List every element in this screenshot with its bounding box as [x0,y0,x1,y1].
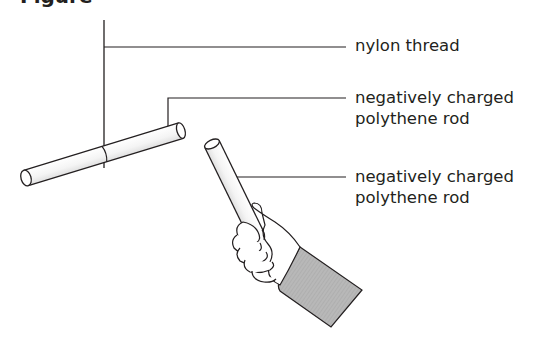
label-line: negatively charged [355,87,514,108]
label-line: polythene rod [355,187,514,208]
label-line: negatively charged [355,166,514,187]
label-held-rod: negatively charged polythene rod [355,166,514,208]
label-nylon-thread: nylon thread [355,35,460,56]
held-polythene-rod [203,137,268,248]
label-line: polythene rod [355,108,514,129]
label-hanging-rod: negatively charged polythene rod [355,87,514,129]
label-line: nylon thread [355,35,460,56]
leader-line-hanging-rod [168,98,346,133]
hanging-polythene-rod [19,122,187,187]
